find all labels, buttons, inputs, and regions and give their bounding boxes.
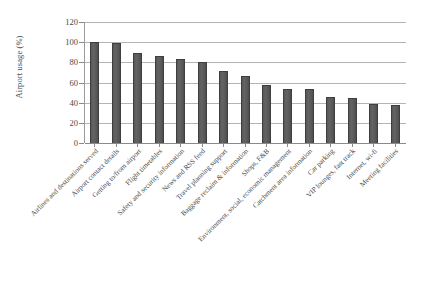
y-tick-label-100: 100 bbox=[38, 38, 78, 47]
bar-slot bbox=[363, 22, 384, 143]
bar-slot bbox=[191, 22, 212, 143]
x-tick-mark bbox=[94, 143, 95, 147]
x-tick-mark bbox=[287, 143, 288, 147]
bar[interactable] bbox=[198, 62, 207, 143]
bar[interactable] bbox=[176, 59, 185, 143]
y-tick-label-120: 120 bbox=[38, 18, 78, 27]
x-tick-mark bbox=[352, 143, 353, 147]
bar-slot bbox=[320, 22, 341, 143]
bar[interactable] bbox=[283, 89, 292, 143]
x-tick-slot bbox=[234, 143, 255, 147]
y-tick-label-40: 40 bbox=[38, 98, 78, 107]
x-tick-mark bbox=[373, 143, 374, 147]
bar[interactable] bbox=[90, 42, 99, 143]
bar-slot bbox=[299, 22, 320, 143]
x-tick-slot bbox=[105, 143, 126, 147]
bar-slot bbox=[234, 22, 255, 143]
y-tick-label-0: 0 bbox=[38, 139, 78, 148]
bars-layer bbox=[84, 22, 406, 143]
y-tick-label-60: 60 bbox=[38, 78, 78, 87]
x-tick-mark bbox=[202, 143, 203, 147]
y-tick-label-20: 20 bbox=[38, 119, 78, 128]
bar[interactable] bbox=[305, 89, 314, 143]
bar-slot bbox=[256, 22, 277, 143]
bar[interactable] bbox=[133, 53, 142, 143]
bar-slot bbox=[277, 22, 298, 143]
x-tick-slot bbox=[84, 143, 105, 147]
y-axis-title: Airport usage (%) bbox=[14, 7, 24, 127]
bar-chart: Airport usage (%) 020406080100120 Airlin… bbox=[0, 0, 427, 297]
bar[interactable] bbox=[262, 85, 271, 143]
x-axis-ticks bbox=[84, 143, 406, 147]
bar-slot bbox=[385, 22, 406, 143]
bar[interactable] bbox=[112, 43, 121, 143]
x-tick-mark bbox=[266, 143, 267, 147]
bar-slot bbox=[84, 22, 105, 143]
bar[interactable] bbox=[155, 56, 164, 143]
x-tick-slot bbox=[127, 143, 148, 147]
x-tick-mark bbox=[116, 143, 117, 147]
x-tick-slot bbox=[342, 143, 363, 147]
bar[interactable] bbox=[369, 104, 378, 143]
x-tick-slot bbox=[363, 143, 384, 147]
bar[interactable] bbox=[348, 98, 357, 143]
x-tick-slot bbox=[191, 143, 212, 147]
bar-slot bbox=[148, 22, 169, 143]
bar[interactable] bbox=[241, 76, 250, 143]
x-tick-mark bbox=[309, 143, 310, 147]
bar-slot bbox=[213, 22, 234, 143]
bar[interactable] bbox=[219, 71, 228, 143]
bar[interactable] bbox=[391, 105, 400, 143]
x-tick-slot bbox=[256, 143, 277, 147]
bar[interactable] bbox=[326, 97, 335, 143]
x-tick-slot bbox=[320, 143, 341, 147]
x-axis-labels: Airlines and destinations servedAirport … bbox=[84, 148, 406, 288]
bar-slot bbox=[127, 22, 148, 143]
bar-slot bbox=[105, 22, 126, 143]
bar-slot bbox=[170, 22, 191, 143]
x-tick-slot bbox=[385, 143, 406, 147]
x-tick-slot bbox=[277, 143, 298, 147]
x-tick-mark bbox=[330, 143, 331, 147]
bar-slot bbox=[342, 22, 363, 143]
x-tick-slot bbox=[148, 143, 169, 147]
y-tick-label-80: 80 bbox=[38, 58, 78, 67]
x-tick-slot bbox=[299, 143, 320, 147]
